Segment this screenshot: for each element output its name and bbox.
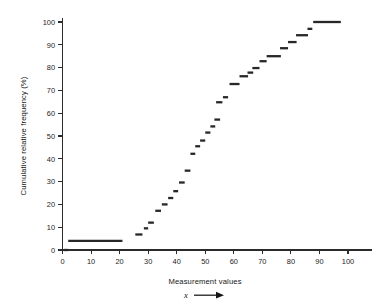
x-tick-label: 70 (258, 257, 266, 266)
y-tick-label: 30 (47, 177, 55, 186)
x-tick-label: 20 (115, 257, 123, 266)
x-tick-label: 40 (173, 257, 181, 266)
y-tick-label: 10 (47, 223, 55, 232)
x-variable-symbol: x (183, 290, 188, 300)
y-tick-label: 40 (47, 155, 55, 164)
chart-figure: 0102030405060708090100 01020304050607080… (0, 0, 380, 304)
x-tick-label: 30 (144, 257, 152, 266)
y-tick-labels: 0102030405060708090100 (43, 18, 55, 255)
x-tick-label: 0 (60, 257, 64, 266)
x-direction-arrow-icon (194, 292, 224, 299)
x-tick-label: 100 (342, 257, 354, 266)
x-tick-label: 50 (201, 257, 209, 266)
y-tick-label: 80 (47, 63, 55, 72)
y-tick-label: 90 (47, 41, 55, 50)
y-tick-label: 50 (47, 132, 55, 141)
ogive-chart: 0102030405060708090100 01020304050607080… (0, 0, 380, 304)
x-axis-title: Measurement values (168, 277, 241, 286)
y-tick-label: 70 (47, 86, 55, 95)
x-tick-label: 10 (87, 257, 95, 266)
data-series-steps (64, 22, 341, 250)
y-tick-label: 20 (47, 200, 55, 209)
x-tick-label: 80 (287, 257, 295, 266)
y-tick-label: 0 (51, 246, 55, 255)
axis-ticks (58, 22, 348, 254)
axes (63, 18, 373, 250)
y-axis-title: Cumulative relative frequency (%) (19, 76, 28, 195)
x-tick-label: 90 (315, 257, 323, 266)
x-tick-label: 60 (230, 257, 238, 266)
y-tick-label: 60 (47, 109, 55, 118)
y-tick-label: 100 (43, 18, 55, 27)
x-tick-labels: 0102030405060708090100 (60, 257, 354, 266)
